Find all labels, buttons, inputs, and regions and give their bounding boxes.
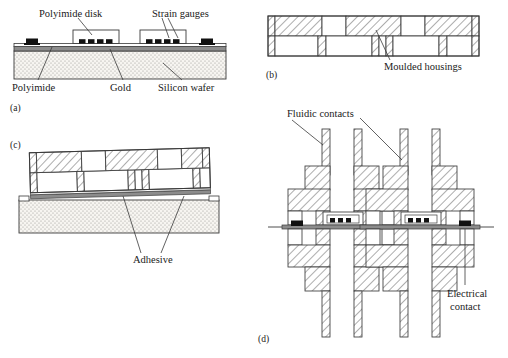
silicon-wafer-body bbox=[14, 51, 226, 79]
panel-letter-a: (a) bbox=[10, 103, 21, 113]
panel-letter-d: (d) bbox=[258, 334, 269, 344]
panel-a-drawing bbox=[14, 18, 226, 80]
leader-fluidic-1 bbox=[292, 120, 323, 145]
wafer-body-c bbox=[19, 200, 219, 233]
contact-pad-left-base bbox=[24, 43, 40, 45]
electrical-contact-pad bbox=[459, 221, 471, 227]
panel-letter-b: (b) bbox=[266, 70, 277, 80]
figure-sensor-packaging-sequence: Polyimide disk Strain gauges Polyimide G… bbox=[0, 0, 508, 358]
assembly-left bbox=[268, 129, 402, 337]
label-electrical-contact-line2: contact bbox=[450, 301, 480, 312]
panel-letter-c: (c) bbox=[10, 140, 21, 150]
contact-pad-right-base bbox=[199, 43, 215, 45]
label-fluidic-contacts: Fluidic contacts bbox=[287, 108, 354, 119]
label-polyimide: Polyimide bbox=[12, 82, 55, 93]
label-silicon-wafer: Silicon wafer bbox=[158, 82, 214, 93]
leader-fluidic-2 bbox=[360, 118, 402, 160]
label-gold: Gold bbox=[110, 82, 131, 93]
label-strain-gauges: Strain gauges bbox=[152, 8, 209, 19]
label-electrical-contact-line1: Electrical bbox=[447, 288, 487, 299]
label-adhesive: Adhesive bbox=[133, 254, 173, 265]
label-moulded-housings: Moulded housings bbox=[384, 61, 462, 72]
panel-b-drawing bbox=[268, 16, 479, 60]
gold-layer bbox=[14, 47, 226, 52]
panel-c-drawing bbox=[19, 148, 219, 253]
label-polyimide-disk: Polyimide disk bbox=[39, 8, 102, 19]
polyimide-layer bbox=[14, 44, 226, 47]
figure-drawing bbox=[0, 0, 508, 358]
